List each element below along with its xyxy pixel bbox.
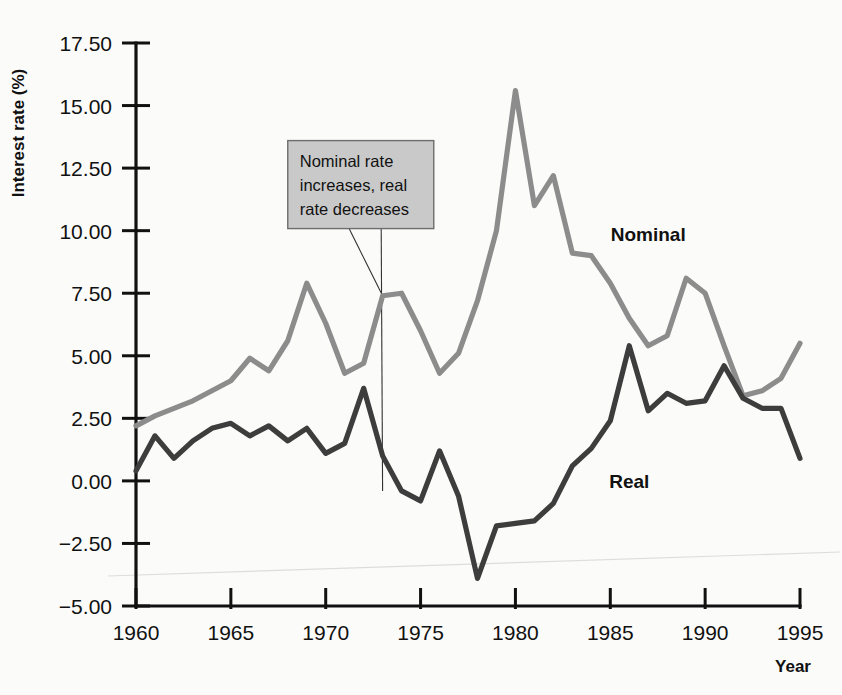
series-label-nominal: Nominal [611, 224, 686, 245]
y-tick-label: −5.00 [59, 595, 112, 618]
x-tick-label: 1990 [682, 621, 729, 644]
y-tick-label: 7.50 [71, 282, 112, 305]
x-tick-label: 1965 [207, 621, 254, 644]
x-tick-label: 1960 [113, 621, 160, 644]
interest-rate-chart: Interest rate (%) Year −5.00−2.500.002.5… [0, 0, 842, 695]
series-label-real: Real [609, 471, 649, 492]
y-tick-label: 2.50 [71, 407, 112, 430]
x-tick-label: 1995 [777, 621, 824, 644]
x-axis-title: Year [775, 657, 811, 676]
y-tick-label: 12.50 [59, 157, 112, 180]
y-tick-label: 15.00 [59, 95, 112, 118]
x-tick-label: 1970 [302, 621, 349, 644]
y-tick-label: 10.00 [59, 220, 112, 243]
x-tick-label: 1980 [492, 621, 539, 644]
x-tick-label: 1985 [587, 621, 634, 644]
annotation-line: Nominal rate [300, 152, 394, 170]
annotation-line: rate decreases [300, 200, 409, 218]
y-tick-label: 17.50 [59, 32, 112, 55]
y-tick-label: 5.00 [71, 345, 112, 368]
annotation-callout: Nominal rateincreases, realrate decrease… [288, 141, 434, 229]
annotation-line: increases, real [300, 176, 407, 194]
y-tick-label: −2.50 [59, 532, 112, 555]
y-tick-label: 0.00 [71, 470, 112, 493]
y-axis-title: Interest rate (%) [9, 69, 28, 197]
x-tick-label: 1975 [397, 621, 444, 644]
